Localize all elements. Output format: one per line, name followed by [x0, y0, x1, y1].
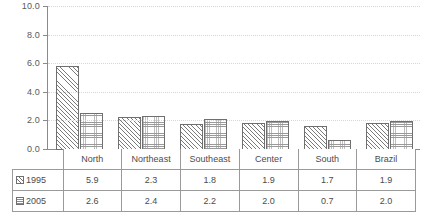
bar-group	[234, 0, 296, 150]
gridline	[48, 63, 420, 64]
y-axis-tick-label: 10.0	[22, 2, 40, 11]
bar-2005-center	[266, 121, 289, 150]
table-cell: 2.3	[122, 170, 181, 191]
bar-1995-south	[304, 126, 327, 150]
plot-area: 10.08.06.04.02.00.0	[0, 0, 431, 155]
gridline	[48, 6, 420, 7]
data-table: NorthNortheastSoutheastCenterSouthBrazil…	[12, 149, 416, 212]
gridline	[48, 92, 420, 93]
bar-1995-north	[56, 66, 79, 150]
table-cell: 2.2	[181, 191, 240, 212]
table-column-header: North	[63, 149, 122, 170]
y-axis-tick-mark	[43, 6, 47, 7]
y-axis-tick-mark	[43, 63, 47, 64]
y-axis: 10.08.06.04.02.00.0	[0, 0, 44, 155]
legend-label: 1995	[26, 175, 46, 185]
gridline	[48, 120, 420, 121]
bar-2005-southeast	[204, 119, 227, 150]
table-corner-cell	[13, 149, 64, 170]
y-axis-tick-label: 4.0	[27, 87, 40, 96]
data-table-body: NorthNortheastSoutheastCenterSouthBrazil…	[13, 149, 416, 212]
y-axis-tick-label: 8.0	[27, 30, 40, 39]
y-axis-tick-label: 2.0	[27, 116, 40, 125]
bar-group	[358, 0, 420, 150]
table-column-header: Center	[239, 149, 298, 170]
legend-item-1995: 1995	[13, 170, 64, 191]
table-header-row: NorthNortheastSoutheastCenterSouthBrazil	[13, 149, 416, 170]
legend-swatch-hatch-icon	[16, 176, 24, 184]
bar-1995-brazil	[366, 123, 389, 150]
bar-group	[172, 0, 234, 150]
y-axis-tick-mark	[43, 92, 47, 93]
table-cell: 5.9	[63, 170, 122, 191]
bar-2005-brazil	[390, 121, 413, 150]
bar-group	[110, 0, 172, 150]
table-row: 20052.62.42.22.00.72.0	[13, 191, 416, 212]
bar-group	[296, 0, 358, 150]
gridline	[48, 35, 420, 36]
table-cell: 2.0	[239, 191, 298, 212]
y-axis-tick-mark	[43, 35, 47, 36]
table-column-header: Brazil	[357, 149, 416, 170]
table-row: 19955.92.31.81.91.71.9	[13, 170, 416, 191]
bar-1995-northeast	[118, 117, 141, 150]
bar-2005-north	[80, 113, 103, 150]
legend-swatch-grid-icon	[16, 197, 24, 205]
table-column-header: South	[298, 149, 357, 170]
table-cell: 0.7	[298, 191, 357, 212]
table-cell: 1.9	[239, 170, 298, 191]
bar-group	[48, 0, 110, 150]
bar-1995-center	[242, 123, 265, 150]
bar-chart-with-data-table: 10.08.06.04.02.00.0 NorthNortheastSouthe…	[0, 0, 431, 219]
bars-layer	[48, 0, 420, 150]
table-cell: 2.0	[357, 191, 416, 212]
table-cell: 2.4	[122, 191, 181, 212]
y-axis-tick-mark	[43, 120, 47, 121]
table-cell: 1.9	[357, 170, 416, 191]
table-column-header: Northeast	[122, 149, 181, 170]
y-axis-tick-label: 6.0	[27, 59, 40, 68]
table-column-header: Southeast	[181, 149, 240, 170]
bar-1995-southeast	[180, 124, 203, 150]
table-cell: 2.6	[63, 191, 122, 212]
legend-label: 2005	[26, 196, 46, 206]
legend-item-2005: 2005	[13, 191, 64, 212]
table-cell: 1.7	[298, 170, 357, 191]
table-cell: 1.8	[181, 170, 240, 191]
